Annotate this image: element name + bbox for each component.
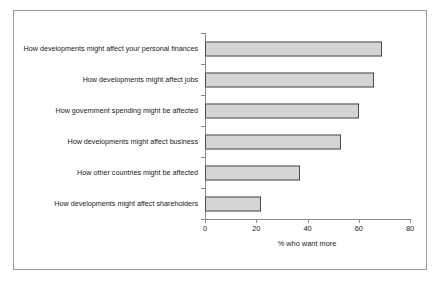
plot-area: How developments might affect your perso… bbox=[0, 0, 441, 283]
x-axis-tick-label: 0 bbox=[203, 224, 207, 233]
bar-value[interactable] bbox=[205, 41, 382, 56]
bar-row: How developments might affect shareholde… bbox=[0, 188, 441, 219]
x-axis-tick-label: 20 bbox=[252, 224, 260, 233]
y-axis-tick bbox=[201, 33, 205, 34]
bar-value[interactable] bbox=[205, 134, 341, 149]
x-axis-tick bbox=[256, 219, 257, 223]
y-axis-tick bbox=[201, 95, 205, 96]
bar-category-label: How developments might affect business bbox=[18, 137, 198, 146]
x-axis-tick bbox=[205, 219, 206, 223]
bar-category-label: How other countries might be affected bbox=[18, 168, 198, 177]
y-axis-tick bbox=[201, 157, 205, 158]
x-axis-tick-label: 60 bbox=[355, 224, 363, 233]
x-axis-tick bbox=[359, 219, 360, 223]
bar-category-label: How developments might affect jobs bbox=[18, 75, 198, 84]
bar-row: How developments might affect your perso… bbox=[0, 33, 441, 64]
bar-value[interactable] bbox=[205, 165, 300, 180]
x-axis-tick bbox=[410, 219, 411, 223]
bar-row: How developments might affect jobs bbox=[0, 64, 441, 95]
bar-category-label: How government spending might be affecte… bbox=[18, 106, 198, 115]
bar-value[interactable] bbox=[205, 103, 359, 118]
bar-value[interactable] bbox=[205, 196, 261, 211]
x-axis-tick-label: 40 bbox=[303, 224, 311, 233]
y-axis-tick bbox=[201, 126, 205, 127]
x-axis-tick-label: 80 bbox=[406, 224, 414, 233]
bar-category-label: How developments might affect your perso… bbox=[18, 44, 198, 53]
bar-category-label: How developments might affect shareholde… bbox=[18, 199, 198, 208]
bar-row: How government spending might be affecte… bbox=[0, 95, 441, 126]
y-axis-tick bbox=[201, 188, 205, 189]
chart-figure: How developments might affect your perso… bbox=[0, 0, 441, 283]
y-axis-tick bbox=[201, 64, 205, 65]
bar-row: How developments might affect business bbox=[0, 126, 441, 157]
x-axis-title: % who want more bbox=[278, 239, 337, 248]
bar-value[interactable] bbox=[205, 72, 374, 87]
bar-row: How other countries might be affected bbox=[0, 157, 441, 188]
x-axis-tick bbox=[308, 219, 309, 223]
